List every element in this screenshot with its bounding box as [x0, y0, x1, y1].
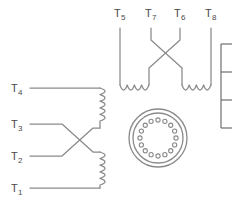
coil-left-lower	[100, 152, 105, 188]
connector-pin	[138, 136, 142, 140]
lead-label-t6: T	[174, 7, 181, 19]
connector-pin	[143, 149, 147, 153]
lead-sub-t5: 5	[121, 13, 126, 22]
upper-winding-group: T 5 T 7 T 6 T 8	[114, 7, 217, 90]
connector-pin	[173, 129, 177, 133]
coil-upper-right	[182, 85, 211, 90]
lead-label-t2: T	[11, 150, 18, 162]
lead-wire-t6	[149, 28, 180, 85]
lead-label-t7: T	[145, 7, 152, 19]
diagram-canvas: T 5 T 7 T 6 T 8	[0, 0, 232, 201]
connector-pin	[149, 153, 153, 157]
winding-schematic: T 5 T 7 T 6 T 8	[0, 0, 232, 201]
coil-left-upper	[100, 88, 105, 128]
lead-sub-t3: 3	[18, 124, 23, 133]
connector-pin	[163, 119, 167, 123]
lead-wire-t3	[30, 124, 100, 152]
connector-pin	[143, 123, 147, 127]
lead-sub-t4: 4	[18, 88, 23, 97]
lead-sub-t2: 2	[18, 156, 23, 165]
legend-table-partial	[221, 44, 232, 128]
coil-upper-left	[120, 85, 149, 90]
connector-pin	[149, 119, 153, 123]
connector-pin	[139, 143, 143, 147]
lead-label-t5: T	[114, 7, 121, 19]
connector-pin	[156, 118, 160, 122]
connector-pin	[174, 136, 178, 140]
lead-sub-t7: 7	[152, 13, 157, 22]
connector-pin	[169, 149, 173, 153]
lead-label-t1: T	[11, 182, 18, 194]
lead-wire-t7	[151, 28, 182, 85]
connector-pin	[169, 123, 173, 127]
connector-pin	[139, 129, 143, 133]
connector-pin	[173, 143, 177, 147]
lead-label-t3: T	[11, 118, 18, 130]
connector-pin-ring	[138, 118, 178, 158]
connector-pin	[156, 154, 160, 158]
circular-connector	[129, 109, 187, 167]
left-winding-group: T 4 T 3 T 2 T 1	[11, 82, 105, 197]
lead-label-t8: T	[205, 7, 212, 19]
lead-wire-t2	[30, 128, 100, 156]
connector-inner-ring	[133, 113, 183, 163]
connector-pin	[163, 153, 167, 157]
lead-sub-t8: 8	[212, 13, 217, 22]
lead-sub-t1: 1	[18, 188, 23, 197]
lead-label-t4: T	[11, 82, 18, 94]
lead-sub-t6: 6	[181, 13, 186, 22]
